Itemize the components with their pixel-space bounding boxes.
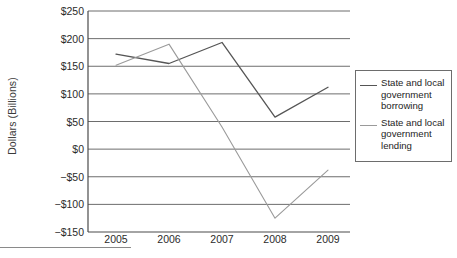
- legend-line-swatch-borrowing: [360, 81, 377, 91]
- series-line-borrowing: [116, 42, 328, 117]
- x-tick-label: 2009: [316, 233, 339, 245]
- legend-label-lending: State and local government lending: [381, 117, 447, 152]
- y-tick-label: −$100: [55, 198, 85, 210]
- x-axis-tick-labels: 20052006200720082009: [88, 233, 350, 253]
- y-tick-label: $250: [61, 5, 84, 17]
- data-series-group: [116, 42, 328, 218]
- y-tick-label: $200: [61, 33, 84, 45]
- legend-item-lending: State and local government lending: [360, 117, 447, 152]
- footer-divider: [0, 247, 131, 248]
- plot-area: [88, 11, 350, 232]
- y-tick-label: −$50: [60, 171, 84, 183]
- series-line-lending: [116, 44, 328, 218]
- legend-line-swatch-lending: [360, 121, 377, 131]
- x-tick-label: 2008: [263, 233, 286, 245]
- y-tick-label: $0: [72, 143, 84, 155]
- y-axis-tick-labels: $250$200$150$100$50$0−$50−$100−$150: [20, 0, 88, 232]
- y-tick-label: $150: [61, 60, 84, 72]
- gridlines: [88, 11, 350, 204]
- line-chart-figure: Dollars (Billions) $250$200$150$100$50$0…: [0, 0, 457, 258]
- legend-item-borrowing: State and local government borrowing: [360, 77, 447, 112]
- chart-legend: State and local government borrowing Sta…: [355, 70, 452, 162]
- legend-label-borrowing: State and local government borrowing: [381, 77, 447, 112]
- y-axis-title-label: Dollars (Billions): [6, 77, 18, 155]
- plot-svg: [88, 11, 350, 232]
- y-tick-label: $100: [61, 88, 84, 100]
- x-tick-label: 2005: [104, 233, 127, 245]
- y-tick-label: −$150: [55, 226, 85, 238]
- x-tick-label: 2007: [210, 233, 233, 245]
- x-tick-label: 2006: [157, 233, 180, 245]
- y-tick-label: $50: [66, 116, 84, 128]
